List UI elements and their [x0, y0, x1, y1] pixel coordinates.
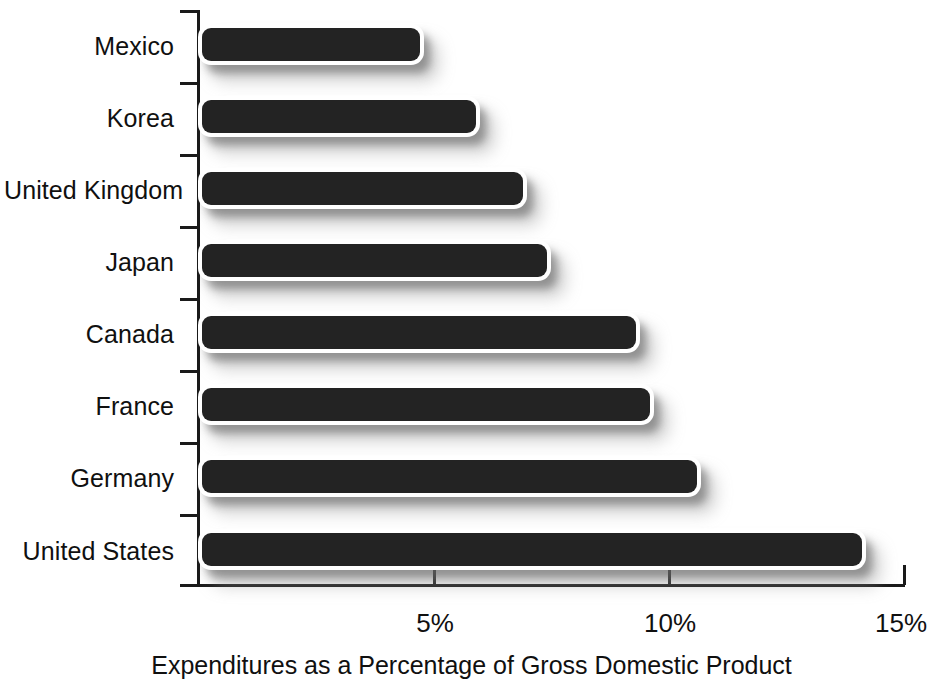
y-axis-tick — [180, 370, 197, 373]
x-axis-tick-5 — [433, 565, 436, 585]
y-axis-label-japan: Japan — [0, 248, 174, 276]
y-axis-label-korea: Korea — [0, 104, 174, 132]
x-axis-tick-label-10: 10% — [610, 608, 730, 638]
y-axis-label-text: Mexico — [4, 32, 174, 60]
y-axis-label-text: Canada — [4, 320, 174, 348]
bar-canada[interactable] — [202, 316, 636, 349]
x-axis-tick-15 — [903, 565, 906, 585]
y-axis-label-text: United Kingdom — [4, 176, 174, 204]
x-axis-tick-label-5: 5% — [375, 608, 495, 638]
x-axis-line — [197, 584, 905, 587]
y-axis-label-germany: Germany — [0, 464, 174, 492]
y-axis-tick — [180, 298, 197, 301]
y-axis-label-text: Germany — [4, 464, 174, 492]
y-axis-label-france: France — [0, 392, 174, 420]
y-axis-label-united-kingdom: United Kingdom — [0, 176, 174, 204]
y-axis-tick — [180, 10, 197, 13]
bar-mexico[interactable] — [202, 28, 420, 61]
y-axis-tick — [180, 82, 197, 85]
x-axis-title: Expenditures as a Percentage of Gross Do… — [0, 650, 943, 680]
bar-united-kingdom[interactable] — [202, 172, 523, 205]
bar-korea[interactable] — [202, 100, 476, 133]
bar-japan[interactable] — [202, 244, 547, 277]
bar-germany[interactable] — [202, 460, 697, 493]
y-axis-label-united-states: United States — [0, 537, 174, 565]
y-axis-label-text: Japan — [4, 248, 174, 276]
x-axis-tick-10 — [668, 565, 671, 585]
y-axis-tick — [180, 584, 197, 587]
y-axis-label-text: France — [4, 392, 174, 420]
y-axis-label-text: United States — [4, 537, 174, 565]
bar-france[interactable] — [202, 388, 650, 421]
y-axis-tick — [180, 442, 197, 445]
y-axis-tick — [180, 226, 197, 229]
bar-chart: Mexico Korea United Kingdom Japan Canada… — [0, 0, 943, 694]
y-axis-label-text: Korea — [4, 104, 174, 132]
y-axis-label-mexico: Mexico — [0, 32, 174, 60]
y-axis-tick — [180, 514, 197, 517]
y-axis-label-canada: Canada — [0, 320, 174, 348]
y-axis-tick — [180, 154, 197, 157]
bar-united-states[interactable] — [202, 533, 862, 566]
y-axis-line — [197, 10, 200, 587]
x-axis-tick-label-15: 15% — [841, 608, 943, 638]
